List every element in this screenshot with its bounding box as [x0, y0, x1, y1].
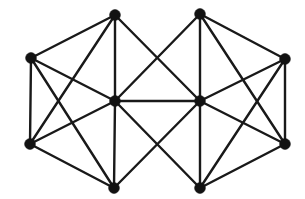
graph-vertex-right: [280, 54, 291, 65]
graph-vertex-left: [26, 53, 37, 64]
graph-edge-v2-v4: [200, 14, 285, 59]
graph-figure: [0, 0, 305, 199]
graph-edge-v7-v9: [30, 144, 114, 188]
graph-vertex-center-left: [110, 96, 121, 107]
graph-vertex-top-left: [110, 10, 121, 21]
graph-vertex-bottom-left: [25, 139, 36, 150]
graph-edge-v1-v3: [31, 15, 115, 58]
graph-edge-v3-v7: [30, 58, 31, 144]
graph-vertex-bottom-right: [280, 139, 291, 150]
graph-vertex-bottom-center-left: [109, 183, 120, 194]
edge-layer: [30, 14, 285, 188]
graph-edge-v5-v9: [114, 101, 115, 188]
graph-edge-v8-v10: [200, 144, 285, 188]
graph-canvas: [0, 0, 305, 199]
graph-vertex-bottom-center-right: [195, 183, 206, 194]
graph-vertex-center-right: [195, 96, 206, 107]
graph-vertex-top-right: [195, 9, 206, 20]
